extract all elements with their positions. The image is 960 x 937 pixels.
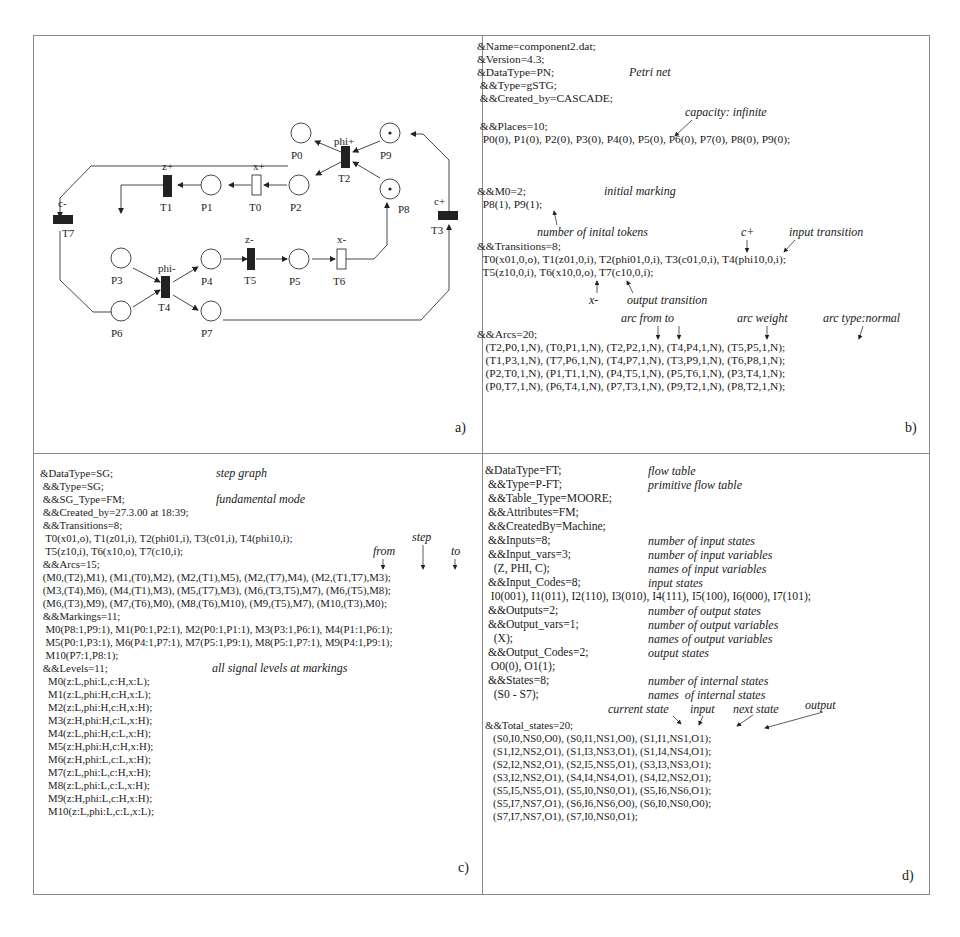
sg-line: &&Levels=11; (40, 662, 108, 675)
svg-text:phi+: phi+ (334, 135, 354, 147)
svg-text:x+: x+ (253, 160, 265, 172)
panel-c-arrows (40, 467, 480, 597)
ft-line: (S7,I7,NS7,O1), (S7,I0,NS0,O1); (485, 809, 638, 823)
ft-line: (S3,I2,NS2,O1), (S4,I4,NS4,O1), (S4,I2,N… (485, 770, 711, 784)
sg-line: M9(z:H,phi:L,c:H,x:H); (40, 792, 152, 805)
sg-line: M5(z:H,phi:H,c:H,x:H); (40, 740, 153, 753)
svg-text:T4: T4 (158, 301, 171, 313)
place-P1 (201, 175, 221, 195)
svg-text:T1: T1 (160, 201, 172, 213)
sg-line: M2(z:L,phi:H,c:H,x:H); (40, 701, 152, 714)
svg-text:T0: T0 (249, 201, 262, 213)
place-P4 (201, 249, 221, 269)
petri-net-diagram: P0 P9 phi+ T2 P2 P1 x+ T0 z+ T1 P8 c- T7… (33, 35, 482, 453)
sg-line: (M6,(T3),M9), (M7,(T6),M0), (M8,(T6),M10… (40, 597, 387, 610)
svg-text:P3: P3 (111, 274, 123, 286)
place-P3 (111, 248, 131, 268)
place-P6 (111, 301, 131, 321)
panel-b-arrows (477, 40, 927, 400)
panel-c-label: c) (458, 860, 469, 876)
note-levels: all signal levels at markings (212, 662, 347, 675)
svg-text:P2: P2 (290, 201, 302, 213)
sg-line: &&Markings=11; (40, 610, 120, 623)
svg-text:z+: z+ (162, 160, 173, 172)
transition-T7 (53, 215, 73, 224)
svg-text:P7: P7 (201, 327, 213, 339)
transition-T1 (163, 175, 172, 197)
panel-d-label: d) (902, 868, 914, 884)
sg-line: M10(P7:1,P8:1); (40, 649, 118, 662)
sg-line: M5(P0:1,P3:1), M6(P4:1,P7:1), M7(P5:1,P9… (40, 636, 392, 649)
svg-text:P9: P9 (380, 149, 392, 161)
svg-text:P5: P5 (289, 275, 301, 287)
svg-text:c+: c+ (434, 195, 445, 207)
place-P2 (289, 175, 309, 195)
sg-line: M8(z:L,phi:L,c:L,x:H); (40, 779, 150, 792)
svg-text:T7: T7 (62, 227, 75, 239)
svg-text:c-: c- (58, 197, 67, 209)
transition-T3 (438, 211, 458, 220)
svg-text:z-: z- (245, 233, 254, 245)
place-P5 (289, 249, 309, 269)
transition-T4 (161, 276, 170, 298)
place-P0 (291, 123, 311, 143)
transition-T2 (341, 146, 350, 168)
svg-text:phi-: phi- (158, 262, 176, 274)
sg-line: M0(z:L,phi:L,c:H,x:L); (40, 675, 150, 688)
svg-text:T2: T2 (338, 172, 350, 184)
svg-text:T5: T5 (244, 274, 257, 286)
panel-a-label: a) (455, 420, 466, 436)
ft-line: (S5,I7,NS7,O1), (S6,I6,NS6,O0), (S6,I0,N… (485, 796, 711, 810)
svg-text:P0: P0 (291, 149, 303, 161)
svg-text:P4: P4 (201, 275, 213, 287)
svg-text:T6: T6 (333, 275, 346, 287)
transition-T5 (247, 248, 255, 270)
sg-line: M3(z:H,phi:H,c:L,x:H); (40, 714, 152, 727)
sg-line: M4(z:L,phi:H,c:L,x:H); (40, 727, 151, 740)
svg-text:P8: P8 (398, 203, 410, 215)
panel-d-arrows (485, 464, 925, 764)
sg-line: M1(z:L,phi:H,c:H,x:L); (40, 688, 151, 701)
panel-b-label: b) (905, 420, 917, 436)
svg-text:P1: P1 (201, 201, 213, 213)
svg-text:T3: T3 (431, 224, 444, 236)
sg-line: M10(z:L,phi:L,c:L,x:L); (40, 805, 154, 818)
place-P7 (201, 301, 221, 321)
svg-text:P6: P6 (111, 327, 123, 339)
svg-text:x-: x- (337, 233, 347, 245)
transition-T6 (337, 249, 346, 269)
transition-T0 (252, 175, 261, 195)
sg-line: M6(z:H,phi:L,c:L,x:H); (40, 753, 151, 766)
ft-line: (S5,I5,NS5,O1), (S5,I0,NS0,O1), (S5,I6,N… (485, 783, 711, 797)
sg-line: M0(P8:1,P9:1), M1(P0:1,P2:1), M2(P0:1,P1… (40, 623, 392, 636)
horizontal-divider (33, 453, 930, 454)
sg-line: M7(z:L,phi:L,c:H,x:H); (40, 766, 151, 779)
